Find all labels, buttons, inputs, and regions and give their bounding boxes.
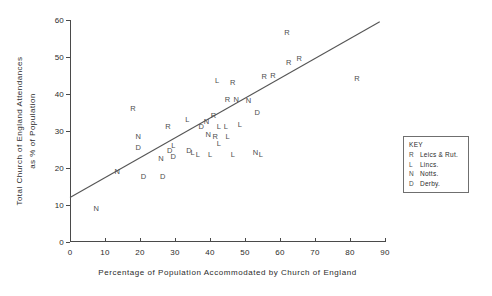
data-point-N: N <box>94 205 99 213</box>
x-tick-label: 50 <box>240 248 249 257</box>
data-point-R: R <box>270 72 275 80</box>
data-point-R: R <box>165 124 170 132</box>
data-point-R: R <box>286 59 291 67</box>
data-point-L: L <box>185 116 189 124</box>
scatter-plot-figure: Total Church of England Attendances as %… <box>0 0 492 296</box>
y-tick-label: 40 <box>55 90 64 99</box>
legend-symbol: L <box>409 161 420 168</box>
y-tick-label: 50 <box>55 53 64 62</box>
legend-label: Derby. <box>420 180 440 187</box>
data-point-R: R <box>130 105 135 113</box>
data-point-R: R <box>354 75 359 83</box>
x-tick-label: 90 <box>380 248 389 257</box>
data-point-L: L <box>238 122 242 130</box>
data-point-L: L <box>224 124 228 132</box>
data-point-N: N <box>158 155 163 163</box>
y-axis-title: Total Church of England Attendances as %… <box>10 20 42 242</box>
data-point-L: L <box>171 142 175 150</box>
x-tick-label: 20 <box>135 248 144 257</box>
y-tick-label: 10 <box>55 201 64 210</box>
data-point-N: N <box>136 133 141 141</box>
data-point-D: D <box>171 153 176 161</box>
data-point-N: N <box>234 96 239 104</box>
data-point-R: R <box>297 55 302 63</box>
y-tick-label: 20 <box>55 164 64 173</box>
data-point-L: L <box>217 124 221 132</box>
legend-row: LLincs. <box>409 161 463 168</box>
legend-rows: RLeics & Rut.LLincs.NNotts.DDerby. <box>409 151 463 187</box>
legend-label: Lincs. <box>420 161 438 168</box>
data-point-N: N <box>246 98 251 106</box>
y-tick-label: 0 <box>59 238 64 247</box>
y-axis-title-line-1: Total Church of England Attendances <box>13 56 26 205</box>
legend-label: Notts. <box>420 170 438 177</box>
x-tick-label: 0 <box>68 248 73 257</box>
legend-symbol: N <box>409 170 420 177</box>
data-point-N: N <box>204 118 209 126</box>
data-point-L: L <box>225 133 229 141</box>
data-point-L: L <box>259 151 263 159</box>
y-axis-title-line-2: as % of Population <box>26 93 39 169</box>
data-point-D: D <box>141 174 146 182</box>
y-tick-label: 30 <box>55 127 64 136</box>
x-tick-label: 60 <box>275 248 284 257</box>
x-tick-label: 70 <box>310 248 319 257</box>
data-point-D: D <box>136 144 141 152</box>
legend-row: RLeics & Rut. <box>409 151 463 158</box>
legend-symbol: D <box>409 180 420 187</box>
data-point-L: L <box>208 151 212 159</box>
data-point-R: R <box>284 29 289 37</box>
data-point-L: L <box>217 140 221 148</box>
data-point-N: N <box>253 149 258 157</box>
data-point-L: L <box>231 151 235 159</box>
x-tick-label: 10 <box>100 248 109 257</box>
data-point-N: N <box>206 131 211 139</box>
data-point-R: R <box>211 112 216 120</box>
x-tick-label: 30 <box>170 248 179 257</box>
data-point-R: R <box>225 96 230 104</box>
data-point-D: D <box>160 174 165 182</box>
x-tick-label: 40 <box>205 248 214 257</box>
legend-row: DDerby. <box>409 180 463 187</box>
legend-row: NNotts. <box>409 170 463 177</box>
y-tick-mark <box>66 242 70 243</box>
x-axis-title: Percentage of Population Accommodated by… <box>70 268 385 277</box>
legend-title: KEY <box>409 141 463 148</box>
data-point-R: R <box>262 74 267 82</box>
data-point-D: D <box>255 109 260 117</box>
plot-area: 0102030405060 0102030405060708090 NNRNDD… <box>70 20 385 242</box>
y-tick-label: 60 <box>55 16 64 25</box>
data-point-N: N <box>115 168 120 176</box>
data-point-L: L <box>196 151 200 159</box>
legend-label: Leics & Rut. <box>420 151 458 158</box>
data-point-L: L <box>215 77 219 85</box>
x-tick-label: 80 <box>345 248 354 257</box>
x-tick-mark <box>385 238 386 242</box>
data-point-R: R <box>230 79 235 87</box>
data-point-L: L <box>190 149 194 157</box>
legend-symbol: R <box>409 151 420 158</box>
legend-box: KEY RLeics & Rut.LLincs.NNotts.DDerby. <box>403 136 469 193</box>
